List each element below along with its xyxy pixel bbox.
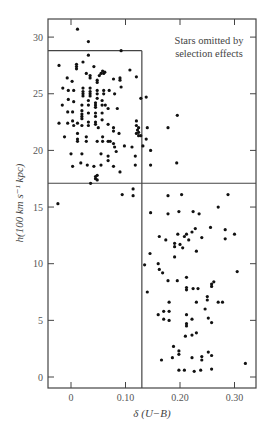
data-point [96, 89, 99, 92]
data-point [101, 135, 104, 138]
data-point [160, 358, 163, 361]
data-point [158, 235, 161, 238]
data-point [112, 165, 115, 168]
data-point [233, 233, 236, 236]
data-point [94, 106, 97, 109]
data-point [112, 126, 115, 129]
annotation-line-1: Stars omitted by [175, 35, 245, 46]
data-point [80, 152, 83, 155]
data-point [86, 164, 89, 167]
data-point [118, 170, 121, 173]
data-point [89, 182, 92, 185]
data-point [134, 155, 137, 158]
data-point [109, 140, 112, 143]
data-point [87, 104, 90, 107]
data-point [176, 233, 179, 236]
data-point [139, 97, 142, 100]
data-point [102, 92, 105, 95]
data-point [221, 301, 224, 304]
data-points [56, 28, 247, 373]
data-point [71, 110, 74, 113]
data-point [87, 111, 90, 114]
data-point [57, 122, 60, 125]
data-point [149, 211, 152, 214]
data-point [192, 287, 195, 290]
data-point [113, 92, 116, 95]
data-point [99, 152, 102, 155]
data-point [166, 279, 169, 282]
data-point [76, 122, 79, 125]
data-point [196, 287, 199, 290]
data-point [181, 246, 184, 249]
data-point [207, 317, 210, 320]
data-point [92, 165, 95, 168]
data-point [85, 140, 88, 143]
data-point [75, 67, 78, 70]
data-point [194, 227, 197, 230]
data-point [176, 279, 179, 282]
data-point [199, 369, 202, 372]
data-point [190, 356, 193, 359]
data-point [96, 92, 99, 95]
data-point [187, 238, 190, 241]
data-point [180, 193, 183, 196]
data-point [80, 109, 83, 112]
data-point [195, 301, 198, 304]
data-point [108, 89, 111, 92]
data-point [157, 313, 160, 316]
data-point [115, 150, 118, 153]
data-point [192, 210, 195, 213]
data-point [101, 104, 104, 107]
data-point [134, 164, 137, 167]
data-point [104, 104, 107, 107]
data-point [132, 194, 135, 197]
data-point [161, 271, 164, 274]
y-tick-label: 10 [33, 258, 43, 269]
data-point [76, 28, 79, 31]
data-point [87, 124, 90, 127]
y-axis-ticks: 051015202530 [33, 32, 256, 383]
data-point [99, 164, 102, 167]
data-point [210, 368, 213, 371]
data-point [112, 130, 115, 133]
data-point [123, 144, 126, 147]
data-point [162, 310, 165, 313]
x-axis-title: δ (U−B) [133, 407, 171, 420]
data-point [71, 80, 74, 83]
data-point [168, 310, 171, 313]
data-point [190, 230, 193, 233]
data-point [198, 212, 201, 215]
data-point [80, 104, 83, 107]
data-point [236, 270, 239, 273]
data-point [173, 255, 176, 258]
data-point [72, 89, 75, 92]
data-point [217, 301, 220, 304]
data-point [85, 72, 88, 75]
data-point [89, 76, 92, 79]
data-point [200, 355, 203, 358]
data-point [71, 165, 74, 168]
y-tick-label: 20 [33, 145, 43, 156]
x-axis-ticks: 00.100.200.30 [69, 19, 244, 403]
data-point [206, 295, 209, 298]
data-point [141, 144, 144, 147]
data-point [173, 245, 176, 248]
data-point [56, 202, 59, 205]
data-point [185, 324, 188, 327]
x-tick-label: 0.10 [117, 392, 135, 403]
data-point [193, 370, 196, 373]
data-point [71, 119, 74, 122]
data-point [185, 286, 188, 289]
data-point [135, 119, 138, 122]
data-point [72, 100, 75, 103]
data-point [177, 210, 180, 213]
data-point [107, 155, 110, 158]
data-point [164, 238, 167, 241]
data-point [200, 358, 203, 361]
data-point [210, 354, 213, 357]
data-point [224, 237, 227, 240]
plot-frame [48, 19, 256, 388]
data-point [195, 331, 198, 334]
data-point [146, 290, 149, 293]
data-point [66, 110, 69, 113]
